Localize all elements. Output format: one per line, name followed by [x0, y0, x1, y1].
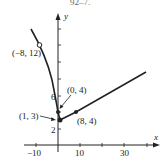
right-line-series [60, 72, 146, 120]
y-axis-label: y [63, 11, 68, 21]
y-axis: 2 6 y [51, 11, 68, 152]
point-marker-8-4 [74, 110, 78, 114]
point-marker-0-4 [56, 110, 60, 114]
arrow-icon [51, 117, 56, 121]
x-tick-label: 30 [120, 148, 130, 158]
annotation-1-3: (1, 3) [19, 111, 39, 121]
y-axis-arrow-icon [56, 13, 61, 20]
left-curve-series [31, 29, 60, 120]
y-tick-label: 2 [51, 125, 56, 135]
chart-title: 92–7. [70, 0, 90, 7]
annotation-0-4: (0, 4) [67, 85, 87, 95]
x-axis: −10 10 30 x [24, 132, 160, 158]
x-tick-label: −10 [27, 148, 42, 158]
annotation-8-4: (8, 4) [77, 116, 97, 126]
chart: 92–7. −10 10 30 x 2 6 y (−8, 12) ( [0, 0, 164, 162]
point-marker-1-3 [58, 118, 63, 123]
annotation-neg8-12: (−8, 12) [12, 48, 41, 58]
x-tick-label: 10 [75, 148, 85, 158]
x-axis-label: x [153, 132, 158, 142]
x-axis-arrow-icon [153, 143, 160, 148]
open-point-marker [37, 43, 42, 48]
